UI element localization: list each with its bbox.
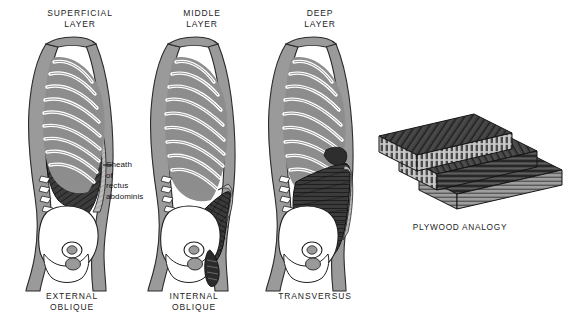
- panel-superficial: [26, 37, 113, 291]
- panel-header-deep: DEEP LAYER: [262, 8, 378, 29]
- shoulder-contour: [286, 37, 336, 47]
- panel-footer-internal-oblique: INTERNAL OBLIQUE: [136, 291, 252, 312]
- panel-header-middle: MIDDLE LAYER: [144, 8, 260, 29]
- plywood-analogy-label: PLYWOOD ANALOGY: [380, 222, 540, 232]
- illustration-canvas: [0, 0, 572, 322]
- panel-footer-transversus: TRANSVERSUS: [252, 291, 378, 302]
- panel-deep: [266, 37, 353, 291]
- femoral-head: [188, 258, 203, 270]
- pelvis-superficial: [39, 206, 98, 283]
- shoulder-contour: [46, 37, 96, 47]
- panel-footer-external-oblique: EXTERNAL OBLIQUE: [12, 291, 132, 312]
- panel-header-superficial: SUPERFICIAL LAYER: [18, 8, 142, 29]
- plywood-analogy: [379, 114, 562, 209]
- femoral-head: [306, 258, 321, 270]
- shoulder-contour: [168, 37, 218, 47]
- femoral-head: [66, 258, 81, 270]
- anatomy-figure: SUPERFICIAL LAYER MIDDLE LAYER DEEP LAYE…: [0, 0, 572, 322]
- rectus-sheath-annotation: Sheath of rectus abdominis: [106, 160, 164, 202]
- pelvis-deep: [279, 206, 338, 283]
